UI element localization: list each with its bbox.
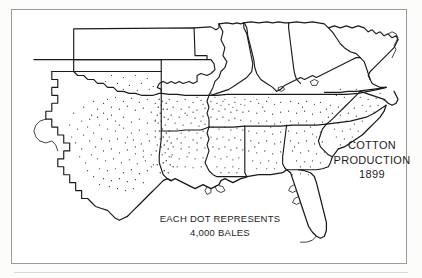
legend-line-1: EACH DOT REPRESENTS	[130, 212, 310, 226]
boundary-rio-grande-lower	[88, 199, 128, 221]
boundary-nc-sc	[326, 105, 386, 124]
coast-alabama	[247, 170, 287, 177]
coast-louisiana	[171, 177, 247, 189]
dots-mississippi	[210, 101, 243, 174]
boundary-kentucky-virginia	[360, 58, 386, 88]
dots-oklahoma	[105, 75, 154, 91]
title-year: 1899	[328, 167, 416, 182]
boundary-mississippi-state	[205, 127, 247, 177]
boundary-missouri-north	[194, 24, 219, 30]
boundary-mexico-detail-2	[40, 141, 58, 151]
dots-alabama	[248, 101, 281, 170]
boundary-georgia-florida	[287, 157, 333, 170]
boundary-arkansas-louisiana	[161, 127, 209, 131]
boundary-missouri-south	[157, 60, 215, 94]
boundary-rio-grande	[46, 72, 88, 199]
dots-arkansas	[169, 97, 206, 134]
boundary-virginia-east	[368, 40, 398, 80]
scanned-page: COTTON PRODUCTION 1899 EACH DOT REPRESEN…	[0, 0, 422, 278]
detail-lake-1	[310, 79, 318, 85]
map-plate-frame: COTTON PRODUCTION 1899 EACH DOT REPRESEN…	[11, 9, 407, 264]
legend-line-2: 4,000 BALES	[130, 226, 310, 240]
dots-texas	[69, 97, 158, 191]
boundary-louisiana-west	[159, 131, 171, 181]
boundary-mexico-detail	[34, 119, 46, 141]
coast-mississippi-delta	[215, 186, 225, 193]
boundary-georgia-alabama	[283, 125, 287, 170]
map-legend-block: EACH DOT REPRESENTS 4,000 BALES	[130, 212, 310, 240]
state-boundaries	[34, 22, 398, 242]
page-rule-divider	[14, 272, 408, 273]
dots-florida	[292, 173, 309, 175]
boundary-kansas	[74, 28, 207, 60]
boundary-oklahoma-south	[74, 60, 162, 72]
dots-delta-dense	[155, 99, 174, 174]
title-line-cotton: COTTON	[328, 138, 416, 153]
boundary-tennessee-nc	[326, 91, 360, 124]
dots-louisiana	[169, 136, 206, 168]
boundary-illinois	[211, 23, 253, 95]
boundary-ohio-river	[277, 58, 361, 92]
boundary-indian-territory	[74, 60, 162, 94]
coast-north-carolina	[360, 91, 398, 105]
coast-texas	[127, 179, 171, 217]
boundary-tennessee-south	[209, 124, 326, 127]
boundary-alabama-mississippi	[245, 126, 247, 177]
boundary-arkansas-east	[207, 95, 209, 127]
boundary-virginia-north	[328, 26, 398, 40]
dots-georgia	[288, 101, 325, 168]
boundary-arkansas-north	[161, 93, 209, 95]
title-line-production: PRODUCTION	[328, 153, 416, 168]
map-title-block: COTTON PRODUCTION 1899	[328, 138, 416, 182]
boundary-indiana-west	[244, 23, 277, 91]
